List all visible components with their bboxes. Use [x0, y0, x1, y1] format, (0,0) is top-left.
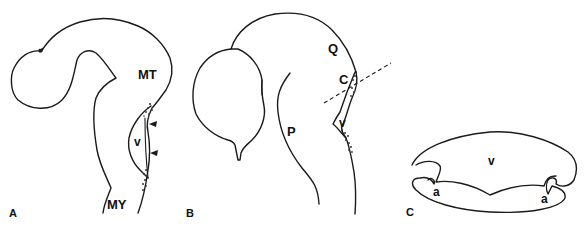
arrowhead-icon: [150, 150, 158, 156]
label-c-ventricle: v: [488, 155, 495, 167]
section-line: [324, 63, 391, 103]
panel-label-c: C: [406, 207, 414, 218]
panel-a-outer-contour: [11, 19, 172, 213]
panel-b-p-contour: [278, 73, 320, 204]
label-my: MY: [107, 198, 127, 211]
arrowhead-icon: [149, 121, 157, 127]
figure-drawing: [0, 0, 588, 228]
panel-b-left-lobe: [193, 49, 265, 160]
label-p: P: [287, 125, 296, 138]
panel-b-drawing: [193, 13, 391, 214]
panel-c-drawing: [412, 132, 576, 213]
panel-label-b: B: [186, 208, 194, 219]
label-a-left: a: [433, 186, 440, 198]
label-mt: MT: [138, 68, 157, 81]
panel-label-a: A: [9, 208, 17, 219]
label-c: C: [339, 73, 348, 86]
panel-a-drawing: [11, 19, 172, 213]
label-b-ventricle: v: [339, 117, 346, 129]
label-a-right: a: [541, 193, 548, 205]
label-a-ventricle: v: [134, 136, 141, 148]
label-q: Q: [328, 42, 338, 55]
panel-c-outer-contour: [412, 132, 576, 213]
